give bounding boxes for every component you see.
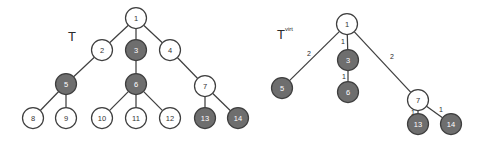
left-tree-node-13[interactable]: 13 — [195, 108, 216, 129]
left-tree-node-circle-11[interactable] — [126, 108, 147, 129]
right-tree-edge-weight-7-14: 1 — [439, 106, 443, 113]
left-tree-node-6[interactable]: 6 — [126, 74, 147, 95]
left-tree-edge-6-10 — [109, 91, 128, 110]
left-tree-node-circle-14[interactable] — [228, 108, 249, 129]
right-tree-node-circle-7[interactable] — [408, 90, 429, 111]
right-tree-edge-1-5 — [289, 31, 339, 80]
right-tree-node-circle-3[interactable] — [338, 50, 359, 71]
right-tree-node-circle-14[interactable] — [441, 114, 462, 135]
left-tree-node-circle-7[interactable] — [195, 76, 216, 97]
tree-diagram-svg: 1234567891011121314 T 212111 153671314 T… — [0, 0, 481, 141]
left-tree-node-3[interactable]: 3 — [126, 40, 147, 61]
right-tree-edge-1-7 — [354, 32, 411, 93]
right-tree-node-14[interactable]: 14 — [441, 114, 462, 135]
left-tree-node-4[interactable]: 4 — [160, 40, 181, 61]
left-tree-node-circle-13[interactable] — [195, 108, 216, 129]
right-tree-edge-weight-3-6: 1 — [342, 73, 346, 80]
left-tree-node-circle-12[interactable] — [160, 108, 181, 129]
left-tree-node-circle-10[interactable] — [92, 108, 113, 129]
right-tree-node-3[interactable]: 3 — [338, 50, 359, 71]
left-tree-edge-2-5 — [74, 57, 95, 77]
left-tree-edge-4-7 — [177, 58, 197, 79]
right-tree-node-5[interactable]: 5 — [272, 78, 293, 99]
right-tree-node-6[interactable]: 6 — [338, 82, 359, 103]
right-tree-node-circle-5[interactable] — [272, 78, 293, 99]
left-tree-node-circle-1[interactable] — [126, 8, 147, 29]
left-tree-edge-1-4 — [144, 25, 163, 43]
tree-figure: 1234567891011121314 T 212111 153671314 T… — [0, 0, 481, 141]
right-tree-edge-weight-1-5: 2 — [307, 50, 311, 57]
right-tree-node-circle-1[interactable] — [337, 14, 358, 35]
left-tree-node-circle-8[interactable] — [23, 108, 44, 129]
right-tree-node-1[interactable]: 1 — [337, 14, 358, 35]
left-tree-node-8[interactable]: 8 — [23, 108, 44, 129]
left-tree-edge-5-8 — [40, 92, 58, 111]
left-tree-edge-7-14 — [213, 93, 231, 110]
left-tree-node-5[interactable]: 5 — [56, 74, 77, 95]
left-tree-node-circle-5[interactable] — [56, 74, 77, 95]
right-tree-node-circle-13[interactable] — [408, 114, 429, 135]
left-tree-title: T — [68, 29, 76, 44]
left-tree-node-circle-2[interactable] — [92, 40, 113, 61]
left-tree-edge-1-2 — [110, 25, 129, 43]
right-tree-edge-weight-1-7: 2 — [390, 53, 394, 60]
left-tree-node-circle-3[interactable] — [126, 40, 147, 61]
right-tree-nodes: 153671314 — [272, 14, 462, 135]
left-tree-node-12[interactable]: 12 — [160, 108, 181, 129]
right-tree-node-13[interactable]: 13 — [408, 114, 429, 135]
left-tree-node-circle-6[interactable] — [126, 74, 147, 95]
right-tree-node-circle-6[interactable] — [338, 82, 359, 103]
right-tree-title: Tvirt — [277, 26, 293, 42]
right-tree-edge-weight-1-3: 1 — [341, 38, 345, 45]
left-tree-edge-6-12 — [143, 91, 162, 110]
right-tree-node-7[interactable]: 7 — [408, 90, 429, 111]
left-tree-node-10[interactable]: 10 — [92, 108, 113, 129]
left-tree-node-2[interactable]: 2 — [92, 40, 113, 61]
left-tree-node-9[interactable]: 9 — [56, 108, 77, 129]
left-tree-node-circle-4[interactable] — [160, 40, 181, 61]
left-tree-node-7[interactable]: 7 — [195, 76, 216, 97]
left-tree-node-11[interactable]: 11 — [126, 108, 147, 129]
tree-title-superscript: virt — [285, 26, 293, 32]
left-tree-node-1[interactable]: 1 — [126, 8, 147, 29]
left-tree-node-14[interactable]: 14 — [228, 108, 249, 129]
left-tree-node-circle-9[interactable] — [56, 108, 77, 129]
